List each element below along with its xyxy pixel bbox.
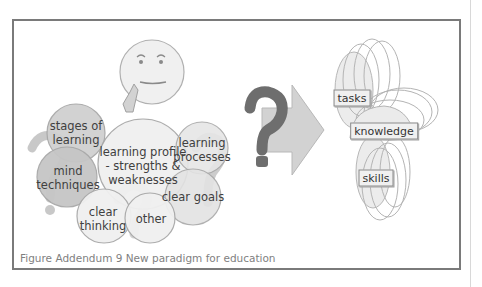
label-skills: skills (358, 170, 393, 187)
bubble-text-line: mind (36, 164, 99, 178)
bubble-text-line: thinking (80, 219, 127, 233)
bubble-learning-processes: learning processes (173, 136, 230, 164)
bubble-text-line: techniques (36, 178, 99, 192)
bubble-clear-goals: clear goals (162, 190, 225, 204)
thinking-face-icon (120, 40, 184, 112)
label-knowledge: knowledge (350, 123, 418, 140)
bubble-clear-thinking: clear thinking (80, 205, 127, 233)
bubble-text-line: other (136, 212, 167, 226)
bubble-stages-of-learning: stages of learning (50, 119, 103, 147)
bubble-other: other (136, 212, 167, 226)
bubble-text-line: stages of (50, 119, 103, 133)
bubble-text-line: clear (80, 205, 127, 219)
big-question-mark-icon (250, 92, 282, 167)
figure-caption: Figure Addendum 9 New paradigm for educa… (20, 252, 276, 264)
label-tasks: tasks (334, 90, 371, 107)
bubble-mind-techniques: mind techniques (36, 164, 99, 192)
bubble-text-line: learning (50, 133, 103, 147)
bubble-text-line: learning (173, 136, 230, 150)
bubble-text-line: clear goals (162, 190, 225, 204)
bubble-text-line: weaknesses (100, 173, 187, 187)
bubble-text-line: processes (173, 150, 230, 164)
